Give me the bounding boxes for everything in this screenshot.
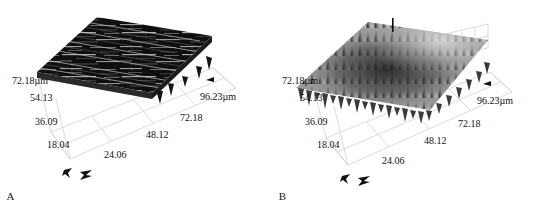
panel-caption-a: A — [0, 190, 146, 202]
x-tick-label-a-4: 96.23µm — [200, 92, 236, 102]
panel-caption-b: B — [147, 190, 418, 202]
origin-arrow-markers-a — [62, 168, 92, 180]
figure-two-panel-surface-topography: 72.18µm 54.13 36.09 18.04 24.06 48.12 72… — [0, 0, 541, 216]
y-tick-label-a-1: 72.18µm — [12, 76, 48, 86]
y-tick-label-b-4: 18.04 — [317, 140, 340, 150]
y-tick-label-a-2: 54.13 — [30, 93, 53, 103]
x-tick-label-a-2: 48.12 — [146, 130, 169, 140]
x-tick-label-b-2: 48.12 — [424, 136, 447, 146]
x-tick-label-b-1: 24.06 — [382, 156, 405, 166]
y-tick-label-a-3: 36.09 — [35, 117, 58, 127]
y-tick-label-a-4: 18.04 — [47, 140, 70, 150]
y-tick-label-b-2: 54.13 — [300, 93, 323, 103]
x-tick-label-b-4: 96.23µm — [477, 96, 513, 106]
panel-b: 72.18µm 54.13 36.09 18.04 24.06 48.12 72… — [270, 0, 541, 216]
origin-arrow-markers-b — [340, 174, 370, 186]
surface-plot-a — [0, 0, 271, 216]
x-tick-label-b-3: 72.18 — [458, 119, 481, 129]
axis-end-arrow-b — [483, 81, 491, 86]
peak-spike-b — [392, 18, 394, 32]
surface-slab-a — [37, 17, 212, 104]
panel-a: 72.18µm 54.13 36.09 18.04 24.06 48.12 72… — [0, 0, 271, 216]
surface-plot-b — [270, 0, 541, 216]
axis-end-arrow-a — [206, 77, 214, 82]
x-tick-label-a-1: 24.06 — [104, 150, 127, 160]
x-tick-label-a-3: 72.18 — [180, 113, 203, 123]
y-tick-label-b-1: 72.18µm — [282, 76, 318, 86]
y-tick-label-b-3: 36.09 — [305, 117, 328, 127]
